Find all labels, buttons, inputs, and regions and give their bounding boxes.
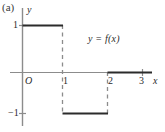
step-function-figure: (a) y x O 1 −1 1 2 3 y = f(x): [0, 0, 165, 132]
plot-canvas: [0, 0, 165, 132]
